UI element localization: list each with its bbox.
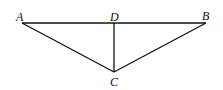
point-label-a: A	[16, 11, 23, 23]
triangle-figure: A D B C	[0, 0, 223, 90]
point-label-c: C	[110, 76, 118, 88]
segment-bc	[114, 23, 206, 72]
point-label-d: D	[110, 11, 119, 23]
segment-ac	[22, 23, 114, 72]
point-label-b: B	[202, 10, 209, 22]
